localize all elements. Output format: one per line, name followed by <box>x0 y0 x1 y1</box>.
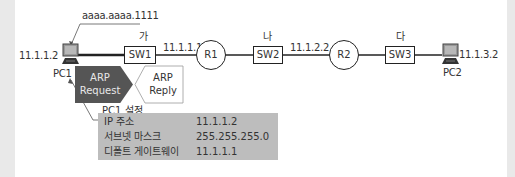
settings-row-gateway: 디폴트 게이트웨이 11.1.1.1 <box>104 145 274 159</box>
pc2-ip-label: 11.1.3.2 <box>459 49 498 61</box>
segment-label-ga: 가 <box>139 31 148 43</box>
settings-key: 서브넷 마스크 <box>104 130 161 144</box>
pc2-name-label: PC2 <box>443 67 461 79</box>
settings-value: 11.1.1.1 <box>196 145 237 159</box>
settings-value: 11.1.1.2 <box>196 115 237 129</box>
settings-key: 디폴트 게이트웨이 <box>104 145 179 159</box>
switch-sw2: SW2 <box>253 46 283 64</box>
settings-value: 255.255.255.0 <box>196 130 269 144</box>
segment-label-da: 다 <box>396 31 405 43</box>
r2-ip-label: 11.1.2.2 <box>290 42 329 54</box>
pc1-icon <box>62 44 79 64</box>
arp-request-line2: Request <box>75 84 133 97</box>
arp-reply-line1: ARP <box>143 71 183 84</box>
pc2-icon <box>442 44 459 64</box>
arp-reply-arrow: ARP Reply <box>135 66 183 103</box>
router-r2: R2 <box>329 40 359 70</box>
arp-request-line1: ARP <box>75 71 133 84</box>
settings-row-ip: IP 주소 11.1.1.2 <box>104 115 274 129</box>
router-r1: R1 <box>196 40 226 70</box>
settings-row-subnet: 서브넷 마스크 255.255.255.0 <box>104 130 274 144</box>
pc1-mac-label: aaaa.aaaa.1111 <box>82 10 159 22</box>
pc1-ip-label: 11.1.1.2 <box>19 50 58 62</box>
pc1-name-label: PC1 <box>53 68 71 80</box>
settings-key: IP 주소 <box>104 115 134 129</box>
switch-sw3: SW3 <box>385 46 415 64</box>
segment-label-na: 나 <box>263 31 272 43</box>
pc1-settings-table: IP 주소 11.1.1.2 서브넷 마스크 255.255.255.0 디폴트… <box>98 113 278 160</box>
switch-sw1: SW1 <box>124 46 156 64</box>
arp-reply-line2: Reply <box>143 84 183 97</box>
